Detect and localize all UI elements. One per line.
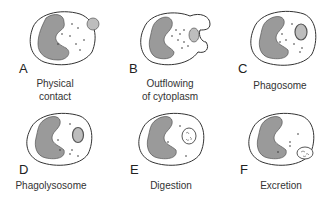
bacterium <box>189 28 199 42</box>
cell-illustration <box>110 0 220 80</box>
bacterium <box>87 18 99 30</box>
panel-letter: D <box>19 162 28 177</box>
panel-b-outflowing: B Outflowing of cytoplasm <box>110 0 220 100</box>
phagosome <box>295 24 307 40</box>
panel-f-excretion: F Excretion <box>220 100 330 203</box>
panel-c-phagosome: C Phagosome <box>220 0 330 100</box>
panel-letter: F <box>240 162 248 177</box>
cell-illustration <box>110 100 220 180</box>
caption: Phagolysosome <box>0 180 106 193</box>
panel-letter: C <box>238 61 247 76</box>
panel-d-phagolysosome: D Phagolysosome <box>0 100 110 203</box>
digestive-vacuole <box>182 128 196 144</box>
panel-e-digestion: E Digestion <box>110 100 220 203</box>
caption: Excretion <box>226 180 330 193</box>
panel-a-physical-contact: A Physical contact <box>0 0 110 100</box>
caption: Phagosome <box>225 80 330 93</box>
excretion-vacuole <box>297 147 313 159</box>
panel-letter: B <box>129 61 138 76</box>
cell-illustration <box>0 100 110 180</box>
cell-illustration <box>0 0 110 80</box>
cell-illustration <box>220 100 330 180</box>
phagolysosome <box>73 128 84 143</box>
panel-letter: E <box>130 162 139 177</box>
cell-illustration <box>220 0 330 80</box>
panel-letter: A <box>19 61 28 76</box>
caption: Digestion <box>116 180 226 193</box>
